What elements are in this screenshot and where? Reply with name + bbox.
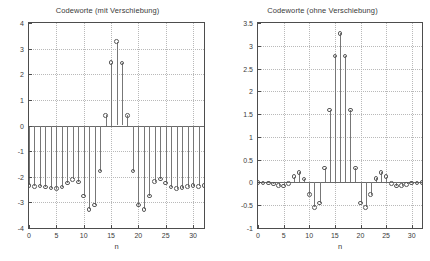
stem-line [100, 126, 101, 172]
data-point-marker [185, 184, 190, 189]
gridline-vertical [284, 23, 285, 228]
data-point-marker [196, 184, 201, 189]
y-tick-mark [258, 23, 261, 24]
data-point-marker [302, 177, 307, 182]
stem-line [188, 126, 189, 187]
data-point-marker [98, 169, 103, 174]
chart-panel-ohne-verschiebung: Codeworte (ohne Verschiebung) -1-0.500.5… [215, 0, 430, 261]
data-point-marker [322, 166, 327, 171]
x-tick-label: 20 [134, 232, 142, 239]
y-tick-mark [258, 114, 261, 115]
data-point-marker [307, 192, 312, 197]
stem-line [166, 126, 167, 184]
y-tick-mark [258, 137, 261, 138]
y-tick-label: 2 [219, 88, 253, 95]
data-point-marker [131, 169, 136, 174]
y-tick-label: 3.5 [219, 20, 253, 27]
x-tick-label: 0 [27, 232, 31, 239]
y-tick-label: -3 [0, 199, 24, 206]
stem-line [182, 126, 183, 188]
x-tick-label: 0 [256, 232, 260, 239]
stem-line [144, 126, 145, 210]
stem-line [111, 63, 112, 126]
y-tick-label: 3 [0, 45, 24, 52]
y-tick-label: 0 [0, 122, 24, 129]
x-axis-label-left: n [87, 242, 147, 251]
y-tick-mark [258, 69, 261, 70]
x-tick-mark [138, 225, 139, 228]
gridline-vertical [309, 23, 310, 228]
data-point-marker [292, 174, 297, 179]
y-tick-label: 4 [0, 20, 24, 27]
y-tick-mark [29, 151, 32, 152]
stem-line [199, 126, 200, 187]
data-point-marker [120, 61, 125, 66]
y-tick-label: -4 [0, 225, 24, 232]
stem-line [355, 168, 356, 183]
gridline-horizontal [29, 151, 204, 152]
data-point-marker [379, 170, 384, 175]
data-point-marker [266, 181, 271, 186]
data-point-marker [43, 185, 48, 190]
data-point-marker [174, 186, 179, 191]
data-point-marker [32, 184, 37, 189]
stem-line [320, 182, 321, 203]
data-point-marker [415, 181, 420, 186]
data-point-marker [152, 179, 157, 184]
chart-title-left: Codeworte (mit Verschiebung) [0, 6, 215, 15]
data-point-marker [87, 207, 92, 212]
zero-baseline [29, 126, 204, 127]
data-point-marker [338, 31, 343, 36]
y-tick-label: -0.5 [219, 202, 253, 209]
stem-line [160, 126, 161, 180]
y-tick-mark [258, 182, 261, 183]
y-tick-label: 0 [219, 179, 253, 186]
x-tick-label: 10 [305, 232, 313, 239]
data-point-marker [81, 194, 86, 199]
stem-line [204, 126, 205, 186]
data-point-marker [60, 185, 65, 190]
x-tick-mark [412, 225, 413, 228]
stem-line [335, 56, 336, 183]
data-point-marker [404, 182, 409, 187]
y-tick-label: -1 [219, 225, 253, 232]
stem-line [95, 126, 96, 205]
data-point-marker [317, 201, 322, 206]
stem-line [67, 126, 68, 184]
stem-line [40, 126, 41, 186]
stem-line [133, 126, 134, 172]
x-tick-mark [111, 225, 112, 228]
x-tick-label: 15 [107, 232, 115, 239]
stem-line [138, 126, 139, 206]
figure-root: Codeworte (mit Verschiebung) -4-3-2-1012… [0, 0, 430, 261]
y-tick-mark [29, 74, 32, 75]
chart-title-right: Codeworte (ohne Verschiebung) [215, 6, 430, 15]
y-tick-mark [258, 46, 261, 47]
stem-line [330, 110, 331, 182]
stem-line [155, 126, 156, 182]
y-tick-mark [29, 202, 32, 203]
stem-line [193, 126, 194, 186]
data-point-marker [163, 181, 168, 186]
data-point-marker [420, 180, 423, 185]
x-tick-mark [386, 225, 387, 228]
y-tick-mark [258, 205, 261, 206]
stem-line [122, 63, 123, 126]
x-tick-label: 20 [357, 232, 365, 239]
x-tick-mark [29, 225, 30, 228]
y-tick-label: 1 [0, 96, 24, 103]
stem-line [149, 126, 150, 196]
data-point-marker [76, 180, 81, 185]
y-tick-mark [29, 177, 32, 178]
data-point-marker [312, 205, 317, 210]
y-tick-label: 3 [219, 42, 253, 49]
x-tick-mark [84, 225, 85, 228]
y-tick-label: 0.5 [219, 156, 253, 163]
data-point-marker [286, 181, 291, 186]
data-point-marker [142, 207, 147, 212]
chart-panel-mit-verschiebung: Codeworte (mit Verschiebung) -4-3-2-1012… [0, 0, 215, 261]
data-point-marker [92, 203, 97, 208]
data-point-marker [158, 177, 163, 182]
stem-line [366, 182, 367, 207]
stem-line [350, 110, 351, 182]
